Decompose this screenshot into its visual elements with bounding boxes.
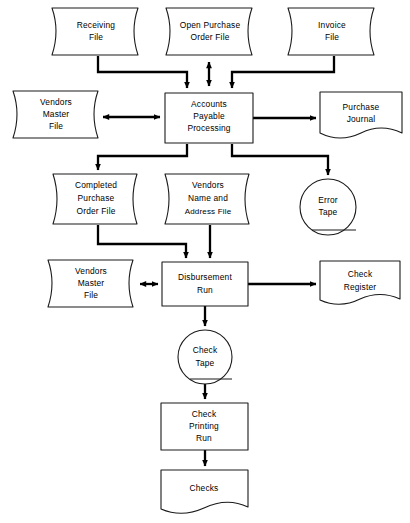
flowchart-canvas: Receiving File Open Purchase Order File … [0, 0, 410, 523]
node-label-line1: Receiving [77, 20, 116, 30]
node-label-line3: File [84, 290, 98, 300]
node-vendors-name-address-file[interactable]: Vendors Name and Address File [165, 174, 249, 224]
node-vendors-master-file-bottom[interactable]: Vendors Master File [48, 260, 133, 307]
node-checks[interactable]: Checks [161, 470, 248, 513]
node-label-line2: Order File [190, 32, 229, 42]
node-label-line3: File [49, 121, 63, 131]
node-label-line2: Purchase [78, 193, 115, 203]
node-error-tape[interactable]: Error Tape [300, 179, 356, 235]
node-label-line2: Register [344, 282, 377, 292]
node-label-line1: Error [318, 195, 338, 205]
node-check-tape[interactable]: Check Tape [178, 330, 232, 384]
node-label-line1: Purchase [343, 102, 380, 112]
node-label-line2: Tape [196, 358, 215, 368]
tape-circle-icon [178, 330, 232, 384]
node-completed-purchase-order-file[interactable]: Completed Purchase Order File [53, 174, 137, 224]
connector-ap-to-error-tape [232, 144, 328, 175]
node-label-line1: Vendors [192, 180, 224, 190]
node-invoice-file[interactable]: Invoice File [288, 8, 374, 55]
node-label-line2: Printing [189, 421, 219, 431]
node-label-line1: Vendors [75, 266, 107, 276]
node-label-line1: Check [193, 345, 218, 355]
node-label-line1: Check [192, 409, 217, 419]
connector-ap-to-completed-po [98, 144, 187, 170]
node-label-line1: Invoice [318, 20, 346, 30]
node-check-register[interactable]: Check Register [320, 261, 400, 304]
node-label-line2: Payable [193, 111, 225, 121]
node-label-line2: File [89, 32, 103, 42]
flowchart-svg: Receiving File Open Purchase Order File … [0, 0, 410, 523]
node-label-line3: Order File [76, 206, 115, 216]
process-box-icon [162, 262, 248, 306]
node-check-printing-run[interactable]: Check Printing Run [161, 403, 248, 450]
node-label-line3: Processing [187, 123, 230, 133]
node-vendors-master-file-top[interactable]: Vendors Master File [13, 91, 98, 138]
node-label-line1: Accounts [191, 99, 227, 109]
node-label-line2: Journal [347, 114, 376, 124]
node-label-line1: Vendors [40, 97, 72, 107]
node-label-line1: Completed [75, 180, 117, 190]
node-label-line1: Checks [189, 483, 218, 493]
connector-receiving-to-ap [98, 56, 187, 88]
node-accounts-payable-processing[interactable]: Accounts Payable Processing [165, 93, 253, 143]
node-label-line3: Address File [185, 207, 232, 216]
node-label-line3: Run [196, 433, 212, 443]
node-label-line2: Name and [188, 193, 228, 203]
node-label-line2: Master [78, 278, 105, 288]
node-label-line2: Master [43, 109, 70, 119]
node-purchase-journal[interactable]: Purchase Journal [320, 92, 402, 138]
connector-completed-po-to-disbursement [98, 225, 186, 258]
node-label-line1: Open Purchase [180, 20, 241, 30]
node-disbursement-run[interactable]: Disbursement Run [162, 262, 248, 306]
connector-invoice-to-ap [232, 56, 334, 88]
node-label-line1: Disbursement [178, 272, 232, 282]
node-receiving-file[interactable]: Receiving File [52, 8, 138, 55]
node-label-line1: Check [348, 269, 373, 279]
node-label-line2: Run [197, 285, 213, 295]
node-label-line2: File [325, 32, 339, 42]
node-label-line2: Tape [319, 207, 338, 217]
node-open-purchase-order-file[interactable]: Open Purchase Order File [166, 8, 252, 55]
